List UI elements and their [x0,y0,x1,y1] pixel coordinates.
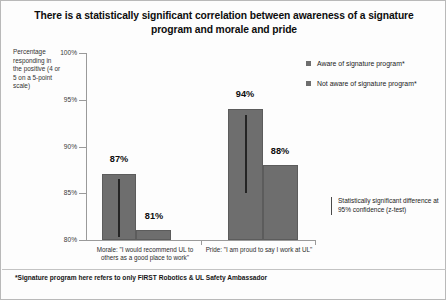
y-tick-label-85: 85% [51,189,77,196]
bar-morale-aware[interactable] [102,174,136,240]
y-tick-mark-85 [79,193,86,194]
bar-value-morale-aware: 87% [94,154,144,164]
legend-item-aware[interactable]: Aware of signature program* [306,59,440,68]
y-tick-mark-100 [79,53,86,54]
bar-value-morale-not-aware: 81% [129,211,179,221]
y-tick-label-90: 90% [51,143,77,150]
bar-morale-not-aware[interactable] [136,230,171,240]
bar-pride-aware[interactable] [228,109,263,240]
x-tick-mark-mid [201,240,202,245]
y-tick-label-80: 80% [51,236,77,243]
bar-value-pride-aware: 94% [220,89,270,99]
chart-footnote: *Signature program here refers to only F… [15,274,425,281]
legend-item-not-aware[interactable]: Not aware of signature program* [306,79,440,88]
y-tick-label-95: 95% [51,96,77,103]
significance-annotation: Statistically significant difference at … [331,197,442,215]
legend-label-aware: Aware of signature program* [317,60,405,67]
x-tick-mark-end [315,240,316,245]
y-tick-mark-80 [79,240,86,241]
significance-marker-pride [245,115,247,193]
legend-swatch-icon-aware [306,61,311,66]
legend-swatch-icon-not-aware [306,81,311,86]
footnote-separator [2,269,446,270]
chart-title: There is a statistically significant cor… [23,9,425,36]
bar-value-pride-not-aware: 88% [255,146,305,156]
chart-container: There is a statistically significant cor… [0,0,446,300]
x-category-label-morale: Morale: "I would recommend UL to others … [89,246,201,262]
y-tick-mark-95 [79,100,86,101]
plot-area: 87% 81% 94% 88% [86,53,315,240]
chart-legend: Aware of signature program* Not aware of… [306,59,440,99]
legend-label-not-aware: Not aware of signature program* [317,80,417,87]
bar-pride-not-aware[interactable] [263,165,298,240]
x-category-label-pride: Pride: "I am proud to say I work at UL" [205,246,313,254]
y-tick-mark-90 [79,147,86,148]
significance-marker-morale [118,179,120,237]
y-tick-label-100: 100% [51,49,77,56]
